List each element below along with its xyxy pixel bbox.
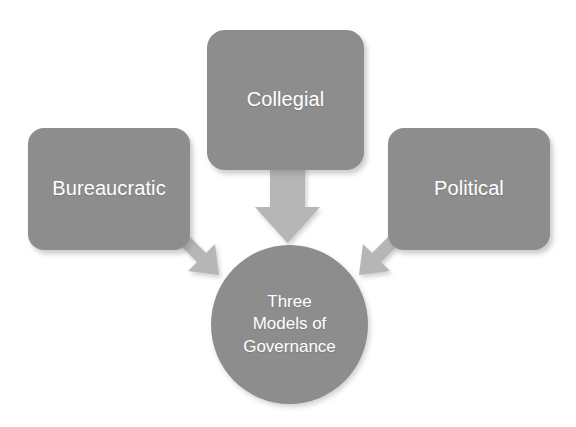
hub-label-line-3: Governance bbox=[243, 336, 336, 359]
hub-label-line-1: Three bbox=[243, 291, 336, 314]
node-bureaucratic-label: Bureaucratic bbox=[52, 177, 165, 201]
node-political-label: Political bbox=[434, 177, 504, 201]
diagram-canvas: Bureaucratic Collegial Political Three M… bbox=[0, 0, 576, 427]
hub-node-label: Three Models of Governance bbox=[235, 291, 344, 359]
arrow-collegial-to-hub bbox=[255, 163, 320, 243]
node-political[interactable]: Political bbox=[388, 128, 550, 250]
hub-node-three-models-of-governance[interactable]: Three Models of Governance bbox=[211, 245, 368, 404]
node-collegial[interactable]: Collegial bbox=[207, 30, 364, 170]
node-collegial-label: Collegial bbox=[247, 88, 325, 112]
node-bureaucratic[interactable]: Bureaucratic bbox=[28, 128, 190, 250]
hub-label-line-2: Models of bbox=[243, 313, 336, 336]
